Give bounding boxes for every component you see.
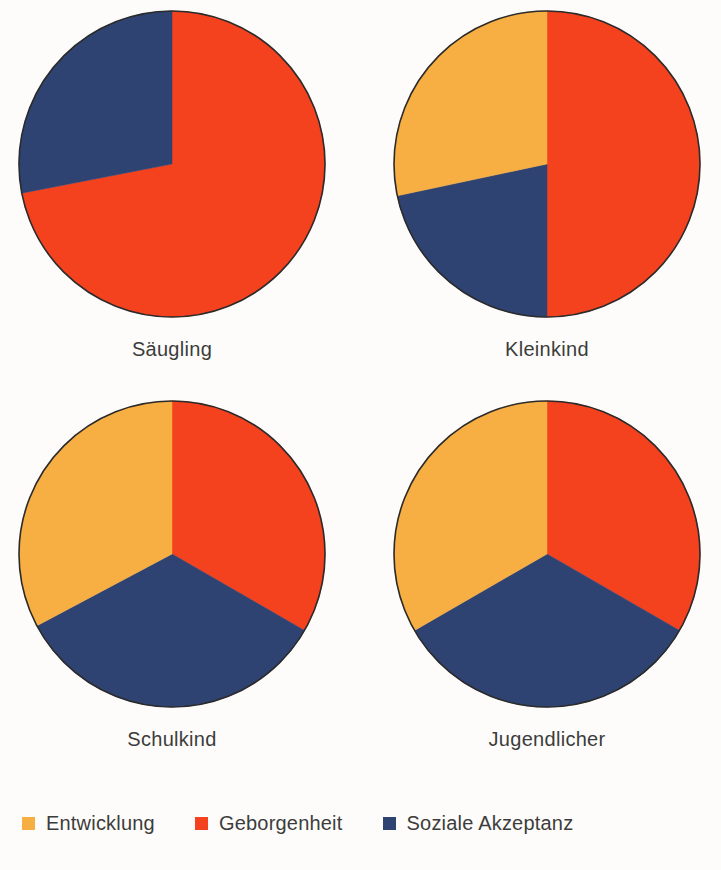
pie-panel-kleinkind: Kleinkind xyxy=(367,8,721,403)
pie-chart xyxy=(16,398,328,710)
pie-chart-figure: SäuglingKleinkindSchulkindJugendlicher E… xyxy=(0,0,721,870)
legend-swatch-icon xyxy=(195,817,208,830)
legend-label: Soziale Akzeptanz xyxy=(407,812,574,835)
legend-swatch-icon xyxy=(383,817,396,830)
pie-panel-label: Schulkind xyxy=(0,728,352,751)
pie-panel-schulkind: Schulkind xyxy=(0,398,352,793)
pie-slice-soziale-akzeptanz[interactable] xyxy=(19,11,172,193)
pie-panel-jugendlicher: Jugendlicher xyxy=(367,398,721,793)
legend-label: Entwicklung xyxy=(46,812,155,835)
pie-chart-grid: SäuglingKleinkindSchulkindJugendlicher xyxy=(0,0,721,790)
legend-item-entwicklung[interactable]: Entwicklung xyxy=(22,812,155,835)
pie-slice-geborgenheit[interactable] xyxy=(547,11,700,317)
pie-panel-label: Kleinkind xyxy=(367,338,721,361)
pie-chart xyxy=(391,398,703,710)
pie-chart xyxy=(391,8,703,320)
pie-slice-entwicklung[interactable] xyxy=(394,11,547,196)
legend-item-soziale-akzeptanz[interactable]: Soziale Akzeptanz xyxy=(383,812,574,835)
chart-legend: EntwicklungGeborgenheitSoziale Akzeptanz xyxy=(0,812,721,835)
pie-svg xyxy=(16,8,328,320)
legend-swatch-icon xyxy=(22,817,35,830)
pie-svg xyxy=(16,398,328,710)
pie-svg xyxy=(391,398,703,710)
legend-item-geborgenheit[interactable]: Geborgenheit xyxy=(195,812,343,835)
pie-chart xyxy=(16,8,328,320)
pie-svg xyxy=(391,8,703,320)
pie-panel-label: Säugling xyxy=(0,338,352,361)
pie-panel-label: Jugendlicher xyxy=(367,728,721,751)
legend-label: Geborgenheit xyxy=(219,812,343,835)
pie-panel-s-ugling: Säugling xyxy=(0,8,352,403)
